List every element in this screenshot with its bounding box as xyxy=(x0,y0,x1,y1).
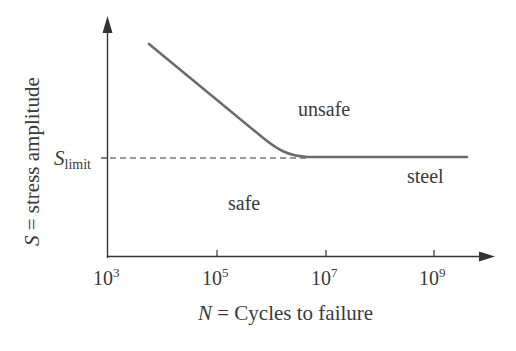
x-tick-label-1e3: 103 xyxy=(93,265,120,289)
y-axis-title: S = stress amplitude xyxy=(20,77,44,246)
x-tick-label-1e7: 107 xyxy=(311,265,338,289)
safe-region-label: safe xyxy=(228,192,260,214)
sn-curve-chart: 103 105 107 109 Slimit unsafe safe steel… xyxy=(0,0,516,351)
steel-curve-label: steel xyxy=(407,165,444,187)
x-axis-arrow-icon xyxy=(479,252,495,262)
x-tick-label-1e5: 105 xyxy=(202,265,229,289)
y-axis-arrow-icon xyxy=(103,16,113,33)
x-axis-title: N = Cycles to failure xyxy=(197,301,373,325)
unsafe-region-label: unsafe xyxy=(298,98,350,120)
x-tick-label-1e9: 109 xyxy=(419,265,446,289)
y-tick-label-slimit: Slimit xyxy=(54,146,91,172)
